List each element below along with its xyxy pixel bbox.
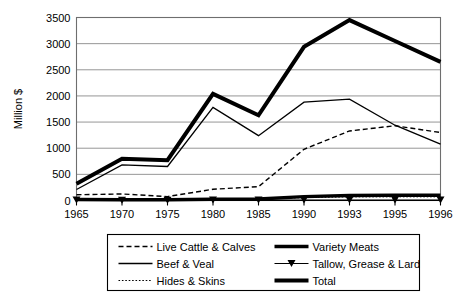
legend-label: Hides & Skins [157,275,226,287]
line-chart: 0500100015002000250030003500 19651970197… [0,0,454,303]
x-tick-label: 1965 [64,208,88,220]
y-tick-label: 3500 [46,12,70,24]
x-tick-label: 1975 [155,208,179,220]
y-tick-label: 1000 [46,142,70,154]
x-tick-label: 1970 [110,208,134,220]
y-axis-title-text: Million $ [12,89,24,129]
legend-label: Total [313,275,336,287]
x-tick-label: 1996 [428,208,452,220]
y-tick-label: 0 [64,195,70,207]
chart-figure: 0500100015002000250030003500 19651970197… [0,0,454,303]
legend-label: Variety Meats [313,241,380,253]
y-axis-title: Million $ [12,89,24,129]
y-tick-label: 1500 [46,116,70,128]
x-tick-label: 1980 [201,208,225,220]
x-tick-label: 1993 [337,208,361,220]
legend-label: Tallow, Grease & Lard [313,258,421,270]
x-tick-label: 1990 [292,208,316,220]
legend-label: Beef & Veal [157,258,215,270]
y-tick-label: 2500 [46,64,70,76]
legend-label: Live Cattle & Calves [157,241,257,253]
y-tick-label: 500 [52,168,70,180]
y-tick-label: 3000 [46,38,70,50]
x-tick-label: 1995 [383,208,407,220]
x-tick-label: 1985 [246,208,270,220]
y-tick-label: 2000 [46,90,70,102]
